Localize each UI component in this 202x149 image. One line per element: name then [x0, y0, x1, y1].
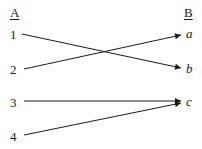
arrow-2-to-a	[24, 35, 181, 69]
arrow-4-to-c	[24, 103, 181, 135]
arrow-1-to-b	[22, 34, 181, 68]
mapping-arrows	[0, 0, 202, 149]
